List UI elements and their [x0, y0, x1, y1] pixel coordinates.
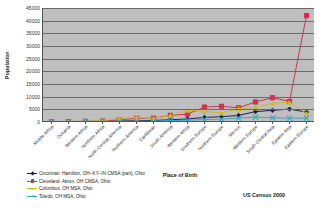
gridline	[43, 21, 314, 22]
y-tick-label: 40000	[26, 18, 40, 23]
legend-item: Cincinnati- Hamilton, OH--KY--IN CMSA (p…	[27, 170, 177, 178]
gridline	[43, 84, 314, 85]
x-axis-tick-labels: Middle AfricaOceaniaWestern AfricaNorthe…	[42, 122, 314, 168]
plot-area	[42, 8, 314, 122]
y-tick-label: 20000	[26, 69, 40, 74]
y-tick-label: 10000	[26, 94, 40, 99]
legend-swatch: ✕	[27, 193, 37, 200]
y-tick-label: 30000	[26, 44, 40, 49]
legend-marker-x-icon: ✕	[31, 195, 34, 198]
legend-swatch	[27, 178, 37, 185]
y-tick-label: 0	[37, 120, 40, 125]
y-tick-label: 45000	[26, 6, 40, 11]
gridline	[43, 109, 314, 110]
legend: Cincinnati- Hamilton, OH--KY--IN CMSA (p…	[27, 170, 177, 200]
series-line	[52, 16, 307, 122]
gridline	[43, 46, 314, 47]
gridline	[43, 59, 314, 60]
gridline	[43, 33, 314, 34]
data-point-marker	[253, 99, 258, 104]
gridline	[43, 8, 314, 9]
y-tick-label: 25000	[26, 56, 40, 61]
series-line	[52, 102, 307, 122]
series-line	[52, 109, 307, 122]
y-axis-tick-labels: 0500010000150002000025000300003500040000…	[13, 8, 41, 122]
legend-item: ✕Toledo, OH MSA, Ohio	[27, 193, 177, 201]
y-axis-title-label: Population	[4, 51, 10, 79]
y-tick-label: 15000	[26, 82, 40, 87]
legend-item: Columbus, OH MSA, Ohio	[27, 185, 177, 193]
legend-swatch	[27, 185, 37, 192]
legend-label: Cincinnati- Hamilton, OH--KY--IN CMSA (p…	[39, 171, 145, 176]
y-tick-label: 5000	[29, 107, 40, 112]
data-point-marker	[304, 13, 309, 18]
legend-swatch	[27, 170, 37, 177]
plot-series-svg	[43, 8, 314, 122]
gridline	[43, 71, 314, 72]
legend-marker-square-icon	[31, 179, 34, 182]
y-tick-label: 35000	[26, 31, 40, 36]
legend-item: Cleveland- Akron, OH CMSA, Ohio	[27, 178, 177, 186]
y-axis-title: Population	[0, 0, 14, 130]
legend-label: Toledo, OH MSA, Ohio	[39, 194, 85, 199]
legend-marker-triangle-icon	[31, 187, 33, 190]
legend-label: Cleveland- Akron, OH CMSA, Ohio	[39, 179, 110, 184]
source-note: US Census 2000	[243, 192, 285, 198]
gridline	[43, 97, 314, 98]
legend-label: Columbus, OH MSA, Ohio	[39, 186, 93, 191]
chart-container: Population 05000100001500020000250003000…	[0, 0, 333, 210]
legend-marker-diamond-icon	[30, 171, 35, 176]
